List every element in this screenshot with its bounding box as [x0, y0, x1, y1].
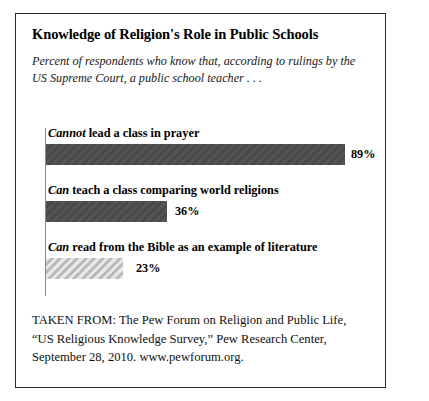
bar-value-label: 89% — [351, 147, 375, 162]
chart-subtitle: Percent of respondents who know that, ac… — [32, 53, 362, 87]
bar-label: Can teach a class comparing world religi… — [46, 183, 372, 198]
chart-figure: Knowledge of Religion's Role in Public S… — [15, 13, 386, 388]
bar-value-label: 36% — [175, 204, 199, 219]
bar — [46, 144, 345, 165]
bar — [46, 201, 167, 222]
source-citation: TAKEN FROM: The Pew Forum on Religion an… — [32, 311, 364, 367]
bar-row: 36% — [46, 201, 372, 222]
bar-label-emphasis: Can — [48, 240, 69, 254]
bar-row: 23% — [46, 258, 372, 279]
bar-row: 89% — [46, 144, 372, 165]
bar-label-rest: read from the Bible as an example of lit… — [69, 240, 317, 254]
bar-value-label: 23% — [136, 261, 160, 276]
chart-title: Knowledge of Religion's Role in Public S… — [32, 26, 362, 43]
bar-label-emphasis: Can — [48, 183, 69, 197]
bar — [46, 258, 123, 279]
bar-label-rest: lead a class in prayer — [86, 126, 200, 140]
plot-area: Cannot lead a class in prayer 89% Can te… — [32, 126, 372, 298]
bar-label: Can read from the Bible as an example of… — [46, 240, 372, 255]
bar-group: Cannot lead a class in prayer 89% — [46, 126, 372, 165]
bar-group: Can teach a class comparing world religi… — [46, 183, 372, 222]
bar-label: Cannot lead a class in prayer — [46, 126, 372, 141]
bar-group: Can read from the Bible as an example of… — [46, 240, 372, 279]
bar-label-rest: teach a class comparing world religions — [69, 183, 279, 197]
bar-label-emphasis: Cannot — [48, 126, 86, 140]
